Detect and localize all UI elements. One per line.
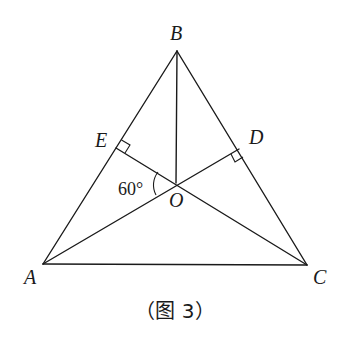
label-b: B [170, 22, 182, 44]
geometry-figure: B E D O A C 60° （图 3） [0, 0, 353, 343]
segment-ad [43, 149, 239, 264]
angle-arc-60 [153, 172, 158, 195]
figure-caption: （图 3） [135, 299, 214, 323]
right-angle-mark-e [122, 140, 131, 153]
label-d: D [248, 126, 264, 148]
segment-bo [176, 51, 177, 183]
label-c: C [313, 266, 327, 288]
angle-label-60: 60° [118, 179, 143, 199]
right-angle-mark-d [231, 154, 243, 162]
segment-ca [43, 264, 307, 265]
label-e: E [94, 129, 107, 151]
label-a: A [22, 266, 37, 288]
label-o: O [169, 189, 183, 211]
segment-ab [43, 51, 177, 264]
